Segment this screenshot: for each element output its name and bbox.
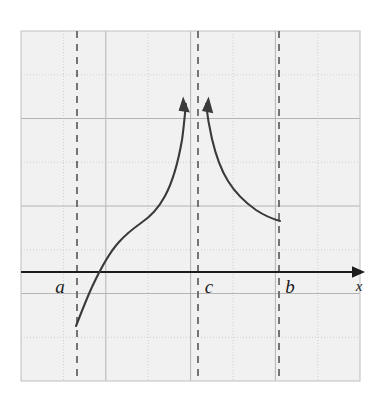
x-axis-label: x xyxy=(355,278,363,294)
graph-svg: a c b x xyxy=(0,0,380,400)
label-b: b xyxy=(285,276,295,297)
figure-container: a c b x xyxy=(0,0,380,400)
label-a: a xyxy=(55,276,65,297)
label-c: c xyxy=(205,276,214,297)
